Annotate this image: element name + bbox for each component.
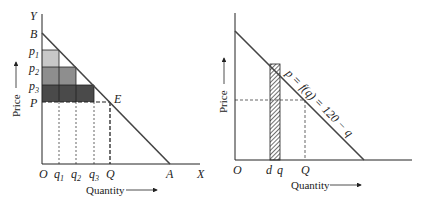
label-q1: q1 — [54, 167, 64, 183]
label-Q-right: Q — [301, 163, 310, 177]
y-axis-label: Y — [30, 9, 38, 23]
price-label-right: Price — [217, 90, 229, 113]
label-A: A — [165, 167, 174, 181]
left-diagram: Y B p1 p2 p3 P E O q1 q2 q3 Q A X Quanti… — [10, 9, 205, 196]
label-p3: p3 — [28, 79, 39, 95]
label-B: B — [30, 27, 38, 41]
label-p2: p2 — [28, 61, 39, 77]
bar-p3 — [42, 85, 94, 102]
consumer-surplus-diagrams: Y B p1 p2 p3 P E O q1 q2 q3 Q A X Quanti… — [0, 0, 421, 201]
label-Q: Q — [106, 167, 115, 181]
label-q: q — [277, 163, 283, 177]
quantity-label-right: Quantity — [291, 179, 330, 191]
label-E: E — [113, 92, 122, 106]
label-P: P — [29, 96, 38, 110]
label-q2: q2 — [71, 167, 81, 183]
origin-right: O — [233, 163, 242, 177]
label-p1: p1 — [28, 44, 39, 60]
quantity-label-left: Quantity — [86, 184, 125, 196]
label-d: d — [266, 163, 273, 177]
x-axis-label: X — [196, 167, 205, 181]
origin-left: O — [39, 167, 48, 181]
right-diagram: p = f(q) = 120 − q O d q Q Quantity Pric… — [217, 13, 412, 191]
hatched-strip — [270, 64, 280, 160]
curve-label: p = f(q) = 120 − q — [282, 66, 356, 140]
demand-line-right — [235, 31, 364, 160]
label-q3: q3 — [89, 167, 99, 183]
price-label-left: Price — [10, 94, 22, 117]
